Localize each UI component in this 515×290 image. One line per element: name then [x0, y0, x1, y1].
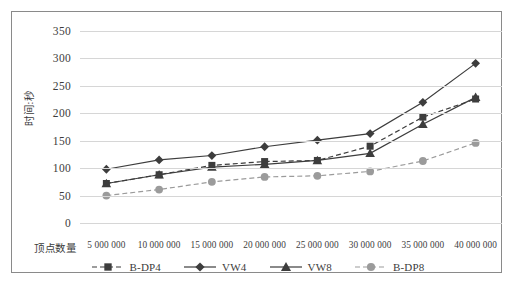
series-b-dp8: [102, 139, 479, 199]
data-point-marker: [419, 157, 427, 165]
data-point-marker: [365, 149, 375, 158]
legend-item-b-dp4[interactable]: B-DP4: [91, 261, 162, 273]
y-axis-tick-label: 250: [31, 80, 71, 92]
x-axis-tick-label: 20 000 000: [243, 240, 286, 250]
gridline: [80, 86, 502, 87]
gridline: [80, 113, 502, 114]
gridline: [80, 31, 502, 32]
legend-marker-icon: [183, 261, 217, 273]
x-axis-tick-label: 10 000 000: [138, 240, 181, 250]
gridline: [80, 223, 502, 224]
x-axis-title: 顶点数量: [34, 240, 76, 255]
data-point-marker: [366, 129, 375, 138]
legend-marker-icon: [354, 261, 388, 273]
data-point-marker: [471, 59, 480, 68]
plot-area: [80, 31, 502, 223]
x-axis-tick-label: 30 000 000: [349, 240, 392, 250]
legend-item-label: VW4: [222, 261, 246, 273]
legend-marker-icon: [269, 261, 303, 273]
series-canvas: [80, 31, 502, 223]
legend-item-vw8[interactable]: VW8: [269, 261, 332, 273]
legend-item-vw4[interactable]: VW4: [183, 261, 246, 273]
y-axis-tick-label: 100: [31, 162, 71, 174]
y-axis-tick-label: 200: [31, 107, 71, 119]
x-axis-tick-label: 15 000 000: [190, 240, 233, 250]
data-point-marker: [261, 173, 269, 181]
gridline: [80, 168, 502, 169]
x-axis-tick-label: 35 000 000: [401, 240, 444, 250]
x-axis-tick-label: 5 000 000: [87, 240, 125, 250]
chart-frame: 时间:秒 顶点数量 050100150200250300350 5 000 00…: [11, 11, 502, 273]
data-point-marker: [208, 178, 216, 186]
data-point-marker: [207, 151, 216, 160]
legend-marker-icon: [91, 261, 125, 273]
legend-item-label: B-DP4: [130, 261, 162, 273]
data-point-marker: [260, 142, 269, 151]
data-point-marker: [418, 98, 427, 107]
chart-legend: B-DP4VW4VW8B-DP8: [12, 261, 503, 273]
y-axis-tick-label: 350: [31, 25, 71, 37]
x-axis-tick-label: 40 000 000: [454, 240, 497, 250]
y-axis-tick-label: 150: [31, 135, 71, 147]
data-point-marker: [155, 156, 164, 165]
legend-item-label: VW8: [308, 261, 332, 273]
data-point-marker: [418, 119, 428, 128]
x-axis-tick-label: 25 000 000: [296, 240, 339, 250]
data-point-marker: [155, 186, 163, 194]
data-point-marker: [102, 165, 111, 174]
gridline: [80, 196, 502, 197]
gridline: [80, 58, 502, 59]
gridline: [80, 141, 502, 142]
legend-item-label: B-DP8: [393, 261, 425, 273]
y-axis-tick-label: 300: [31, 52, 71, 64]
legend-item-b-dp8[interactable]: B-DP8: [354, 261, 425, 273]
y-axis-tick-label: 0: [31, 217, 71, 229]
data-point-marker: [313, 172, 321, 180]
y-axis-tick-label: 50: [31, 190, 71, 202]
